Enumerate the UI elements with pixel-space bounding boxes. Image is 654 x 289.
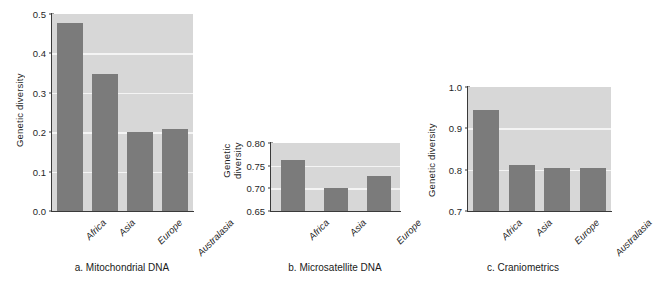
x-axis-label-africa: Africa (83, 217, 108, 242)
panel-caption-c: c. Craniometrics (433, 262, 613, 273)
plot-area-b (271, 143, 400, 211)
y-axis-tick-label: 0.8 (410, 164, 462, 175)
bar-africa (473, 110, 499, 211)
bar-asia (92, 74, 118, 211)
y-axis-tick-label: 0.5 (0, 9, 46, 20)
y-axis-tick-label: 0.4 (0, 48, 46, 59)
bar-africa (281, 160, 305, 211)
y-axis-tick-label: 0.1 (0, 166, 46, 177)
bar-europe (544, 168, 570, 211)
y-axis-line-c (467, 86, 468, 212)
y-axis-line-b (270, 142, 271, 212)
plot-area-a (52, 14, 193, 211)
y-axis-tick-label: 0.65 (212, 206, 265, 217)
y-axis-line-a (51, 13, 52, 212)
bar-europe (367, 176, 391, 211)
y-axis-tick-label: 0.75 (212, 160, 265, 171)
y-axis-tick-label: 1.0 (410, 82, 462, 93)
bar-europe (127, 132, 153, 211)
y-axis-tick-label: 0.0 (0, 206, 46, 217)
y-axis-tick-label: 0.7 (410, 206, 462, 217)
chart-panel-craniometrics: Genetic diversity 0.70.80.91.0 AfricaAsi… (410, 0, 617, 289)
bar-asia (324, 188, 348, 211)
y-axis-tick-label: 0.70 (212, 183, 265, 194)
x-axis-label-europe: Europe (572, 217, 601, 246)
x-axis-label-australasia: Australasia (613, 217, 654, 258)
panel-caption-a: a. Mitochondrial DNA (32, 262, 212, 273)
bar-africa (57, 23, 83, 211)
x-axis-label-asia: Asia (347, 217, 368, 238)
x-axis-line-a (51, 211, 194, 212)
y-axis-label-c: Genetic diversity (426, 100, 437, 220)
y-axis-tick-label: 0.2 (0, 127, 46, 138)
y-axis-tick-label: 0.80 (212, 138, 265, 149)
bar-asia (509, 165, 535, 211)
y-axis-label-a: Genetic diversity (14, 50, 25, 170)
chart-panel-microsatellite-dna: Genetic diversity 0.650.700.750.80 Afric… (212, 0, 412, 289)
y-axis-tick-label: 0.9 (410, 123, 462, 134)
x-axis-line-b (270, 211, 401, 212)
x-axis-label-africa: Africa (306, 217, 331, 242)
x-axis-line-c (467, 211, 612, 212)
plot-area-c (468, 87, 611, 211)
bar-australasia (162, 129, 188, 211)
x-axis-label-asia: Asia (533, 217, 554, 238)
panel-caption-b: b. Microsatellite DNA (245, 262, 425, 273)
bar-australasia (580, 168, 606, 211)
x-axis-label-europe: Europe (155, 217, 184, 246)
chart-panel-mitochondrial-dna: Genetic diversity 0.00.10.20.30.40.5 Afr… (0, 0, 215, 289)
y-axis-tick-label: 0.3 (0, 87, 46, 98)
x-axis-label-africa: Africa (499, 217, 524, 242)
x-axis-label-asia: Asia (116, 217, 137, 238)
